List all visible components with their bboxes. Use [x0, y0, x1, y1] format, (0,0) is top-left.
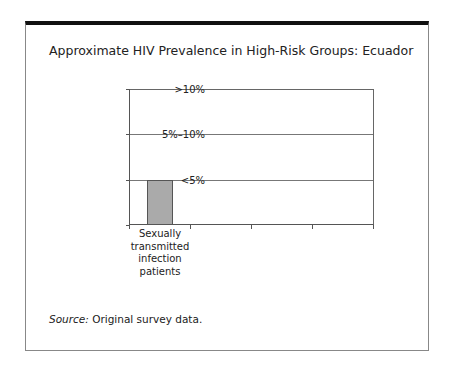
- source-text: Original survey data.: [89, 313, 202, 325]
- y-tick-5-10: 5%–10%: [162, 129, 205, 140]
- x-label-line: infection: [115, 253, 205, 266]
- chart-title: Approximate HIV Prevalence in High-Risk …: [49, 43, 413, 58]
- x-tickmark: [251, 225, 252, 229]
- y-tickmark: [126, 180, 130, 181]
- x-label-line: transmitted: [115, 241, 205, 254]
- y-tickmark: [126, 134, 130, 135]
- bar-sti-patients: [147, 180, 173, 225]
- x-label-line: patients: [115, 266, 205, 279]
- source-note: Source: Original survey data.: [49, 313, 202, 325]
- x-tickmark: [312, 225, 313, 229]
- x-label-sti-patients: Sexually transmitted infection patients: [115, 228, 205, 278]
- source-label: Source:: [49, 313, 89, 325]
- y-tickmark: [126, 89, 130, 90]
- x-label-line: Sexually: [115, 228, 205, 241]
- y-tick-gt10: >10%: [174, 84, 205, 95]
- y-tick-lt5: <5%: [181, 175, 205, 186]
- x-tickmark: [373, 225, 374, 229]
